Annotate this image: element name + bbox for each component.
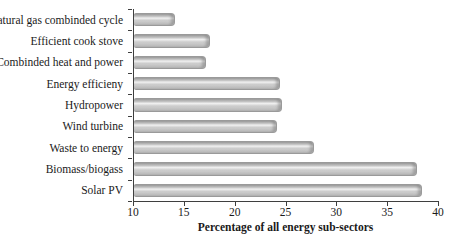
y-axis-tick — [128, 137, 132, 138]
category-label: Wind turbine — [0, 116, 128, 137]
category-label: Efficient cook stove — [0, 30, 128, 51]
bar — [134, 162, 417, 176]
bar — [134, 34, 210, 48]
y-axis-tick — [128, 94, 132, 95]
y-axis-tick — [128, 116, 132, 117]
bar-chart-figure: Natural gas combinded cycleEfficient coo… — [0, 0, 459, 249]
bar — [134, 77, 280, 91]
bar — [134, 98, 282, 112]
x-tick-label: 35 — [381, 206, 393, 219]
x-tick-label: 10 — [127, 206, 139, 219]
plot-area — [133, 9, 439, 202]
y-axis-tick — [128, 9, 132, 10]
y-axis-tick — [128, 180, 132, 181]
y-axis-tick — [128, 158, 132, 159]
bar — [134, 120, 277, 134]
bar — [134, 13, 175, 27]
x-axis-title: Percentage of all energy sub-sectors — [133, 221, 438, 233]
category-label: Natural gas combinded cycle — [0, 9, 128, 30]
x-tick-label: 20 — [229, 206, 241, 219]
category-label: Combinded heat and power — [0, 52, 128, 73]
category-label: Solar PV — [0, 180, 128, 201]
bar — [134, 56, 206, 70]
y-axis-tick — [128, 73, 132, 74]
y-axis-tick — [128, 52, 132, 53]
category-label: Waste to energy — [0, 137, 128, 158]
x-tick-label: 15 — [178, 206, 190, 219]
x-tick-label: 40 — [432, 206, 444, 219]
category-label: Energy efficieny — [0, 73, 128, 94]
x-tick-label: 25 — [280, 206, 292, 219]
bar — [134, 141, 314, 155]
category-label: Hydropower — [0, 94, 128, 115]
bar — [134, 184, 422, 198]
y-axis-tick — [128, 201, 132, 202]
y-axis-category-labels: Natural gas combinded cycleEfficient coo… — [0, 9, 128, 201]
category-label: Biomass/biogass — [0, 158, 128, 179]
y-axis-tick — [128, 30, 132, 31]
x-tick-label: 30 — [331, 206, 343, 219]
